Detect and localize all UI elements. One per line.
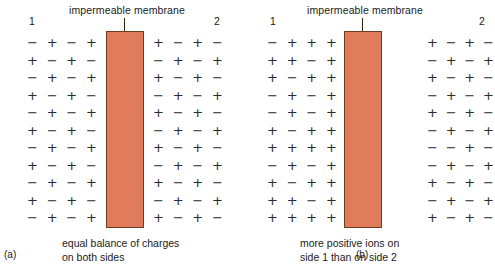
charge-row: +−+− bbox=[152, 106, 224, 119]
charge-grid-left-a: −+−++−+−−+−++−+−−+−++−+−−+−++−+−−+−++−+−… bbox=[26, 36, 98, 224]
positive-charge: + bbox=[211, 89, 224, 102]
positive-charge: + bbox=[325, 106, 338, 119]
positive-charge: + bbox=[85, 71, 98, 84]
negative-charge: − bbox=[445, 176, 458, 189]
negative-charge: − bbox=[152, 124, 165, 137]
charge-row: +−+− bbox=[426, 36, 495, 49]
positive-charge: + bbox=[65, 159, 78, 172]
negative-charge: − bbox=[172, 176, 185, 189]
charge-row: −+−+ bbox=[426, 159, 495, 172]
positive-charge: + bbox=[211, 54, 224, 67]
positive-charge: + bbox=[325, 71, 338, 84]
negative-charge: − bbox=[211, 36, 224, 49]
negative-charge: − bbox=[46, 89, 59, 102]
negative-charge: − bbox=[172, 71, 185, 84]
charge-row: ++−+ bbox=[266, 54, 338, 67]
charge-row: −+−+ bbox=[152, 124, 224, 137]
negative-charge: − bbox=[482, 176, 495, 189]
charge-row: +−+− bbox=[152, 141, 224, 154]
positive-charge: + bbox=[445, 54, 458, 67]
negative-charge: − bbox=[26, 106, 39, 119]
charge-row: +−+− bbox=[152, 176, 224, 189]
positive-charge: + bbox=[172, 159, 185, 172]
charge-row: −+−+ bbox=[152, 89, 224, 102]
negative-charge: − bbox=[65, 211, 78, 224]
charge-row: −+−+ bbox=[426, 124, 495, 137]
charge-row: +−+− bbox=[26, 89, 98, 102]
positive-charge: + bbox=[445, 124, 458, 137]
negative-charge: − bbox=[85, 54, 98, 67]
negative-charge: − bbox=[85, 194, 98, 207]
positive-charge: + bbox=[463, 211, 476, 224]
negative-charge: − bbox=[46, 159, 59, 172]
positive-charge: + bbox=[266, 194, 279, 207]
positive-charge: + bbox=[445, 89, 458, 102]
positive-charge: + bbox=[286, 141, 299, 154]
positive-charge: + bbox=[152, 36, 165, 49]
positive-charge: + bbox=[426, 71, 439, 84]
negative-charge: − bbox=[445, 141, 458, 154]
negative-charge: − bbox=[426, 124, 439, 137]
charge-grid-left-b: −+++++−++−++−+−+−+−++−++++++−+−++−++++−+… bbox=[266, 36, 338, 224]
charge-row: +−+− bbox=[26, 159, 98, 172]
panel-b: impermeable membrane 1 2 −+++++−++−++−+−… bbox=[248, 0, 495, 274]
positive-charge: + bbox=[152, 71, 165, 84]
positive-charge: + bbox=[305, 71, 318, 84]
negative-charge: − bbox=[211, 71, 224, 84]
positive-charge: + bbox=[426, 36, 439, 49]
charge-row: −+−+ bbox=[152, 54, 224, 67]
negative-charge: − bbox=[65, 106, 78, 119]
positive-charge: + bbox=[426, 176, 439, 189]
side-label-2-b: 2 bbox=[479, 15, 485, 27]
charge-row: +−++ bbox=[266, 124, 338, 137]
charge-row: +−+− bbox=[26, 54, 98, 67]
negative-charge: − bbox=[191, 89, 204, 102]
charge-row: −+−+ bbox=[266, 89, 338, 102]
negative-charge: − bbox=[426, 89, 439, 102]
negative-charge: − bbox=[445, 71, 458, 84]
negative-charge: − bbox=[26, 36, 39, 49]
side-label-1-a: 1 bbox=[29, 15, 35, 27]
positive-charge: + bbox=[463, 36, 476, 49]
positive-charge: + bbox=[286, 211, 299, 224]
positive-charge: + bbox=[26, 124, 39, 137]
positive-charge: + bbox=[85, 176, 98, 189]
positive-charge: + bbox=[211, 194, 224, 207]
negative-charge: − bbox=[463, 159, 476, 172]
positive-charge: + bbox=[445, 194, 458, 207]
positive-charge: + bbox=[26, 159, 39, 172]
positive-charge: + bbox=[65, 54, 78, 67]
negative-charge: − bbox=[152, 194, 165, 207]
positive-charge: + bbox=[26, 54, 39, 67]
negative-charge: − bbox=[286, 71, 299, 84]
charge-row: ++−+ bbox=[266, 194, 338, 207]
charge-row: +−+− bbox=[152, 211, 224, 224]
negative-charge: − bbox=[46, 194, 59, 207]
charge-row: +−+− bbox=[426, 71, 495, 84]
positive-charge: + bbox=[325, 54, 338, 67]
negative-charge: − bbox=[445, 36, 458, 49]
positive-charge: + bbox=[286, 194, 299, 207]
positive-charge: + bbox=[46, 36, 59, 49]
positive-charge: + bbox=[65, 194, 78, 207]
negative-charge: − bbox=[65, 141, 78, 154]
negative-charge: − bbox=[26, 176, 39, 189]
negative-charge: − bbox=[85, 159, 98, 172]
positive-charge: + bbox=[152, 141, 165, 154]
positive-charge: + bbox=[325, 159, 338, 172]
membrane-label-a: impermeable membrane bbox=[52, 4, 202, 16]
side-label-2-a: 2 bbox=[214, 15, 220, 27]
negative-charge: − bbox=[65, 71, 78, 84]
positive-charge: + bbox=[325, 89, 338, 102]
negative-charge: − bbox=[46, 124, 59, 137]
negative-charge: − bbox=[211, 106, 224, 119]
positive-charge: + bbox=[172, 89, 185, 102]
charge-row: −+−+ bbox=[266, 159, 338, 172]
negative-charge: − bbox=[46, 54, 59, 67]
positive-charge: + bbox=[286, 54, 299, 67]
charge-row: −+−+ bbox=[152, 159, 224, 172]
positive-charge: + bbox=[266, 71, 279, 84]
negative-charge: − bbox=[152, 89, 165, 102]
side-label-1-b: 1 bbox=[270, 15, 276, 27]
negative-charge: − bbox=[305, 89, 318, 102]
